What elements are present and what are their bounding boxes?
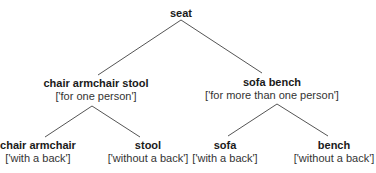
node-label: bench	[294, 139, 375, 152]
node-label: stool	[108, 139, 189, 152]
edge-sofa-bench-to-bench	[277, 104, 328, 136]
node-feature: ['without a back']	[108, 152, 189, 165]
edge-chair-armchair-stool-to-stool	[92, 106, 140, 137]
node-bench: bench ['without a back']	[294, 139, 375, 165]
node-sofa-bench: sofa bench ['for more than one person']	[205, 76, 339, 102]
node-label: sofa bench	[205, 76, 339, 89]
node-feature: ['for more than one person']	[205, 89, 339, 102]
node-feature: ['without a back']	[294, 152, 375, 165]
node-label: seat	[170, 7, 192, 20]
node-sofa: sofa ['with a back']	[192, 139, 257, 165]
node-label: sofa	[192, 139, 257, 152]
node-feature: ['with a back']	[0, 152, 76, 165]
node-feature: ['for one person']	[43, 90, 148, 103]
node-label: chair armchair	[0, 139, 76, 152]
edge-sofa-bench-to-sofa	[228, 104, 277, 136]
node-stool: stool ['without a back']	[108, 139, 189, 165]
node-label: chair armchair stool	[43, 77, 148, 90]
node-feature: ['with a back']	[192, 152, 257, 165]
node-chair-armchair: chair armchair ['with a back']	[0, 139, 76, 165]
node-chair-armchair-stool: chair armchair stool ['for one person']	[43, 77, 148, 103]
edge-seat-to-sofa-bench	[181, 20, 262, 73]
node-seat: seat	[170, 7, 192, 20]
edge-seat-to-chair-armchair-stool	[98, 20, 181, 75]
edge-chair-armchair-stool-to-chair-armchair	[45, 106, 92, 137]
